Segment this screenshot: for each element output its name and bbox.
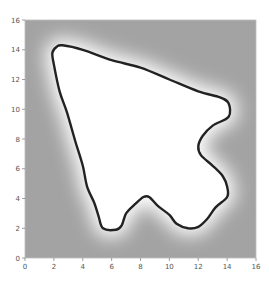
y-tick-label: 12: [11, 76, 20, 84]
y-tick-label: 10: [11, 106, 20, 114]
y-tick-label: 4: [16, 195, 21, 203]
y-tick-label: 16: [11, 17, 20, 25]
y-tick-label: 0: [16, 255, 20, 263]
x-axis: 0246810121416: [23, 258, 261, 271]
y-tick-label: 14: [11, 46, 20, 54]
y-tick-label: 8: [16, 136, 20, 144]
contour-heatmap-figure: 0246810121416 0246810121416: [0, 0, 269, 283]
y-axis: 0246810121416: [11, 17, 25, 263]
x-tick-label: 8: [138, 263, 142, 271]
x-tick-label: 14: [223, 263, 232, 271]
y-tick-label: 6: [16, 165, 21, 173]
plot-area: [25, 20, 256, 258]
x-tick-label: 2: [52, 263, 56, 271]
x-tick-label: 0: [23, 263, 27, 271]
x-tick-label: 12: [194, 263, 203, 271]
x-tick-label: 16: [252, 263, 261, 271]
x-tick-label: 6: [109, 263, 114, 271]
y-tick-label: 2: [16, 225, 20, 233]
x-tick-label: 4: [81, 263, 86, 271]
x-tick-label: 10: [165, 263, 174, 271]
